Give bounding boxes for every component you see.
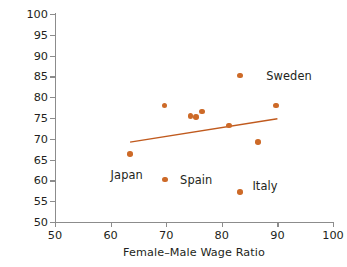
y-axis-tick-mark — [50, 201, 55, 202]
y-axis-tick-label: 90 — [34, 49, 48, 62]
x-axis-tick-mark — [277, 222, 278, 227]
annotation-japan: Japan — [111, 168, 143, 182]
plot-area: 505560657075808590951005060708090100Swed… — [55, 14, 333, 222]
x-axis-tick-mark — [55, 222, 56, 227]
annotation-spain: Spain — [180, 173, 212, 187]
data-point-japan — [127, 151, 133, 157]
annotation-sweden: Sweden — [266, 69, 312, 83]
y-axis-tick-mark — [50, 180, 55, 181]
x-axis-tick-mark — [166, 222, 167, 227]
annotation-italy: Italy — [252, 179, 277, 193]
x-axis-tick-mark — [222, 222, 223, 227]
scatter-plot-figure: Participation Rate 505560657075808590951… — [0, 0, 347, 267]
y-axis-tick-mark — [50, 139, 55, 140]
data-point — [226, 123, 232, 129]
y-axis-tick-mark — [50, 97, 55, 98]
y-axis-tick-label: 85 — [34, 70, 48, 83]
x-axis-tick-label: 50 — [48, 229, 62, 242]
x-axis-title-text: Female–Male Wage Ratio — [123, 246, 265, 259]
y-axis-tick-mark — [50, 160, 55, 161]
y-axis-tick-label: 75 — [34, 112, 48, 125]
y-axis-tick-mark — [50, 118, 55, 119]
data-point — [199, 109, 205, 115]
x-axis-title: Female–Male Wage Ratio — [55, 246, 333, 259]
y-axis-tick-label: 50 — [34, 216, 48, 229]
y-axis-tick-mark — [50, 14, 55, 15]
x-axis-tick-label: 90 — [270, 229, 284, 242]
y-axis-tick-label: 95 — [34, 28, 48, 41]
y-axis-tick-label: 60 — [34, 174, 48, 187]
y-axis-tick-label: 80 — [34, 91, 48, 104]
x-axis-tick-label: 70 — [159, 229, 173, 242]
x-axis-tick-mark — [111, 222, 112, 227]
x-axis-tick-mark — [333, 222, 334, 227]
y-axis-tick-label: 70 — [34, 132, 48, 145]
data-point-italy — [237, 189, 243, 195]
x-axis-tick-label: 80 — [215, 229, 229, 242]
x-axis-tick-label: 100 — [322, 229, 344, 242]
y-axis-tick-mark — [50, 35, 55, 36]
x-axis-tick-label: 60 — [103, 229, 117, 242]
y-axis-tick-mark — [50, 56, 55, 57]
y-axis-tick-label: 55 — [34, 195, 48, 208]
data-point — [255, 139, 261, 145]
y-axis-title: Participation Rate — [0, 0, 22, 267]
y-axis-tick-label: 65 — [34, 153, 48, 166]
y-axis-tick-label: 100 — [26, 8, 48, 21]
data-point — [193, 114, 199, 120]
y-axis-tick-mark — [50, 76, 55, 77]
